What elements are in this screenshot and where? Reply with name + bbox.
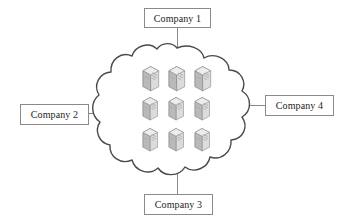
- server-icon: [169, 67, 185, 91]
- server-icon: [143, 67, 159, 91]
- diagram-canvas: Company 1 Company 2 Company 3 Company 4: [0, 0, 346, 224]
- server-icon: [143, 98, 158, 121]
- node-company-1-label: Company 1: [154, 13, 201, 24]
- node-company-4[interactable]: Company 4: [265, 95, 334, 116]
- server-icon: [143, 129, 158, 152]
- node-company-3-label: Company 3: [155, 199, 202, 210]
- node-company-4-label: Company 4: [276, 100, 323, 111]
- server-icon: [195, 67, 211, 91]
- node-company-2-label: Company 2: [31, 109, 78, 120]
- node-company-2[interactable]: Company 2: [20, 104, 89, 125]
- server-icon: [169, 98, 184, 121]
- server-grid: [143, 67, 211, 151]
- node-company-3[interactable]: Company 3: [144, 194, 213, 215]
- server-icon: [195, 129, 210, 152]
- server-icon: [169, 129, 184, 152]
- node-company-1[interactable]: Company 1: [144, 8, 211, 28]
- server-icon: [195, 98, 210, 121]
